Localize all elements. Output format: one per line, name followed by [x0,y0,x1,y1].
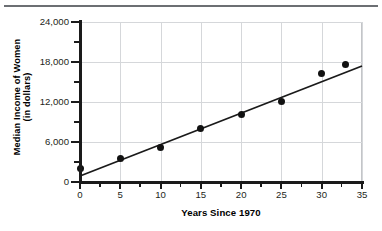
y-axis-minor-tick [74,161,80,163]
x-axis-tick [361,182,363,189]
x-tick-label: 35 [347,189,377,200]
y-axis-tick [71,141,80,143]
x-axis-tick [119,182,121,189]
x-axis-minor-tick [341,182,343,187]
x-axis-tick [240,182,242,189]
y-tick-label: 12,000 [3,96,69,107]
x-tick-label: 30 [307,189,337,200]
data-point [117,155,124,162]
y-axis-tick [71,21,80,23]
y-tick-label: 18,000 [3,56,69,67]
y-axis-tick [71,101,80,103]
data-point [157,144,164,151]
x-axis-tick [200,182,202,189]
x-tick-label: 10 [146,189,176,200]
x-axis-tick [321,182,323,189]
y-axis-tick [71,61,80,63]
x-tick-label: 15 [186,189,216,200]
x-tick-label: 20 [226,189,256,200]
y-tick-label: 6,000 [3,136,69,147]
x-tick-label: 0 [65,189,95,200]
x-tick-label: 5 [105,189,135,200]
x-axis-minor-tick [220,182,222,187]
y-tick-label: 24,000 [3,16,69,27]
x-axis-title: Years Since 1970 [80,207,362,218]
x-axis-tick [79,182,81,189]
y-axis-minor-tick [74,81,80,83]
data-point [197,125,204,132]
x-axis-minor-tick [260,182,262,187]
plot-area [80,22,362,182]
data-point [278,98,285,105]
data-point [342,61,349,68]
x-axis-minor-tick [139,182,141,187]
x-axis-minor-tick [301,182,303,187]
x-axis-tick [160,182,162,189]
data-point [318,70,325,77]
y-axis-minor-tick [74,41,80,43]
x-axis-minor-tick [99,182,101,187]
x-axis-minor-tick [180,182,182,187]
data-point [238,111,245,118]
y-tick-label: 0 [3,176,69,187]
chart-figure: Median Income of Women (in dollars) 06,0… [0,0,382,231]
gridline-vertical [362,22,363,182]
x-tick-label: 25 [266,189,296,200]
y-axis-minor-tick [74,121,80,123]
top-rule-divider [4,5,378,7]
x-axis-tick [280,182,282,189]
